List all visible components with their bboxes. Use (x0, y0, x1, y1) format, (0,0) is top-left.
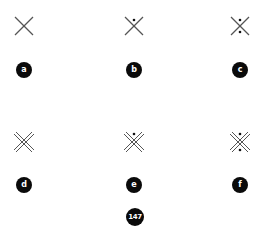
label-badge-f: f (232, 177, 248, 193)
label-badge-a: a (16, 62, 32, 78)
page-number-badge: 147 (126, 208, 144, 226)
saltire-dots-top-bottom-glyph-c (229, 15, 251, 37)
label-badge-c: c (232, 62, 248, 78)
saltire-dot-top-glyph-b (123, 15, 145, 37)
label-badge-e: e (126, 177, 142, 193)
label-badge-b: b (126, 62, 142, 78)
double-saltire-glyph-d (13, 131, 35, 153)
double-saltire-dot-top-glyph-e (123, 131, 145, 153)
saltire-glyph-a (13, 15, 35, 37)
double-saltire-dots-top-bottom-glyph-f (229, 131, 251, 153)
label-badge-d: d (16, 177, 32, 193)
